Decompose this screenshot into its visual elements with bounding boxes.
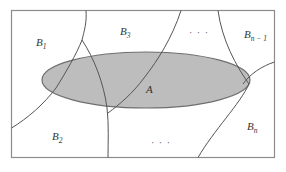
label-a: A	[145, 83, 153, 95]
ellipsis-top: · · ·	[189, 27, 209, 38]
event-a-ellipse	[42, 52, 250, 108]
ellipsis-bottom: · · ·	[151, 137, 171, 148]
partition-diagram: B1 B3 Bn − 1 A B2 Bn · · · · · ·	[0, 0, 286, 172]
